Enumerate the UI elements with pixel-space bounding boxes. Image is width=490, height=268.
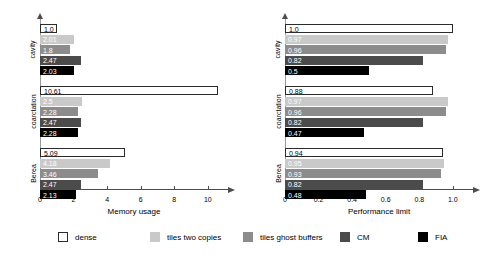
bar-value-label: 2.47: [43, 57, 57, 64]
bar: 2.5: [40, 97, 82, 106]
bar: 2.47: [40, 56, 81, 65]
bar-value-label: 1.0: [289, 25, 299, 32]
bar-value-label: 1.0: [44, 25, 54, 32]
x-axis-title: Performance limit: [348, 207, 410, 216]
legend-label: CM: [357, 233, 369, 242]
legend-item: dense: [58, 232, 97, 242]
bar-value-label: 2.03: [43, 67, 57, 74]
bar-value-label: 0.5: [288, 67, 298, 74]
bar: 2.28: [40, 107, 78, 116]
bar-value-label: 10.61: [44, 87, 62, 94]
legend-label: dense: [75, 233, 97, 242]
legend: densetiles two copiestiles ghost buffers…: [0, 232, 490, 262]
legend-item: tiles ghost buffers: [243, 232, 323, 242]
bar-group: cavity1.02.011.82.472.03: [40, 24, 228, 75]
bar-value-label: 0.94: [289, 149, 303, 156]
bar: 1.0: [285, 24, 453, 33]
bar: 5.09: [40, 148, 125, 157]
x-axis-arrow: [228, 187, 235, 193]
bar-value-label: 2.47: [43, 119, 57, 126]
category-label-text: cavity: [275, 41, 282, 59]
bar-value-label: 0.97: [288, 36, 302, 43]
bar-value-label: 0.93: [288, 170, 302, 177]
bar: 0.94: [285, 148, 443, 157]
bar: 10.61: [40, 86, 218, 95]
chart-panel-memory-usage: Memory usage 0246810cavity1.02.011.82.47…: [0, 0, 245, 225]
bar: 0.93: [285, 169, 441, 178]
bar: 1.8: [40, 45, 70, 54]
y-axis-arrow: [37, 13, 43, 19]
bar-group: Berea0.940.950.930.820.48: [285, 148, 473, 199]
bar: 3.46: [40, 169, 98, 178]
bar: 2.03: [40, 66, 74, 75]
legend-label: FIA: [435, 233, 447, 242]
category-label-text: Berea: [30, 164, 37, 183]
plot-area-memory-usage: Memory usage 0246810cavity1.02.011.82.47…: [40, 24, 228, 190]
plot-area-performance-limit: Performance limit 00.20.40.60.81.0cavity…: [285, 24, 473, 190]
bar: 0.96: [285, 45, 446, 54]
bar-group: coarctation0.880.970.960.820.47: [285, 86, 473, 137]
legend-swatch-icon: [243, 232, 253, 242]
bar: 0.97: [285, 35, 448, 44]
bar-value-label: 2.13: [43, 191, 57, 198]
bar-value-label: 2.01: [43, 36, 57, 43]
bar: 0.82: [285, 118, 423, 127]
x-axis-title: Memory usage: [108, 207, 161, 216]
bar-value-label: 1.8: [43, 46, 53, 53]
category-label-coarctation: coarctation: [271, 86, 285, 137]
bar-value-label: 0.47: [288, 129, 302, 136]
bar-value-label: 5.09: [44, 149, 58, 156]
bar-value-label: 0.97: [288, 98, 302, 105]
category-label-text: cavity: [30, 41, 37, 59]
bar-group: cavity1.00.970.960.820.5: [285, 24, 473, 75]
bar: 4.18: [40, 159, 110, 168]
legend-swatch-icon: [418, 232, 428, 242]
bar: 0.96: [285, 107, 446, 116]
bar-value-label: 4.18: [43, 160, 57, 167]
bar: 0.47: [285, 128, 364, 137]
category-label-text: coarctation: [275, 94, 282, 128]
legend-swatch-icon: [340, 232, 350, 242]
bar: 0.5: [285, 66, 369, 75]
category-label-cavity: cavity: [271, 24, 285, 75]
bar-group: coarctation10.612.52.282.472.28: [40, 86, 228, 137]
legend-label: tiles ghost buffers: [260, 233, 323, 242]
y-axis-arrow: [282, 13, 288, 19]
category-label-text: coarctation: [30, 94, 37, 128]
category-label-berea: Berea: [26, 148, 40, 199]
bar-value-label: 0.95: [288, 160, 302, 167]
bar-value-label: 0.82: [288, 181, 302, 188]
bar-value-label: 0.82: [288, 57, 302, 64]
bar: 0.82: [285, 180, 423, 189]
x-axis-arrow: [473, 187, 480, 193]
bar-value-label: 0.48: [288, 191, 302, 198]
legend-swatch-icon: [58, 232, 68, 242]
bar-value-label: 3.46: [43, 170, 57, 177]
bar: 2.01: [40, 35, 74, 44]
bar: 2.47: [40, 118, 81, 127]
category-label-coarctation: coarctation: [26, 86, 40, 137]
bar-value-label: 2.47: [43, 181, 57, 188]
bar-value-label: 2.28: [43, 129, 57, 136]
bar-value-label: 0.82: [288, 119, 302, 126]
bar-value-label: 2.28: [43, 108, 57, 115]
bar: 0.97: [285, 97, 448, 106]
bar-value-label: 0.96: [288, 46, 302, 53]
bar: 0.82: [285, 56, 423, 65]
figure: Memory usage 0246810cavity1.02.011.82.47…: [0, 0, 490, 268]
legend-item: tiles two copies: [150, 232, 221, 242]
legend-swatch-icon: [150, 232, 160, 242]
bar: 2.47: [40, 180, 81, 189]
bar: 2.13: [40, 190, 76, 199]
bar-value-label: 0.96: [288, 108, 302, 115]
legend-label: tiles two copies: [167, 233, 221, 242]
bar: 2.28: [40, 128, 78, 137]
bar: 0.88: [285, 86, 433, 95]
category-label-berea: Berea: [271, 148, 285, 199]
category-label-cavity: cavity: [26, 24, 40, 75]
chart-panel-performance-limit: Performance limit 00.20.40.60.81.0cavity…: [245, 0, 490, 225]
legend-item: FIA: [418, 232, 447, 242]
category-label-text: Berea: [275, 164, 282, 183]
legend-item: CM: [340, 232, 369, 242]
bar: 0.95: [285, 159, 444, 168]
